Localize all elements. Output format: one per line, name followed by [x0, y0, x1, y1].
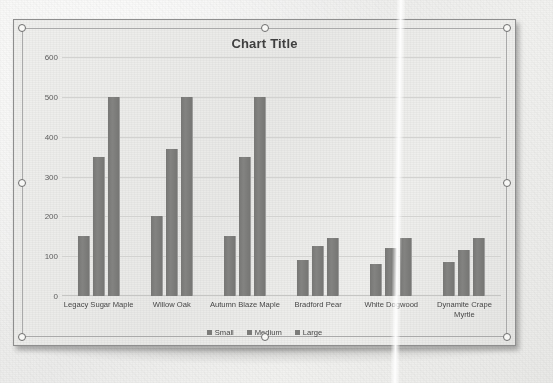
bar-medium[interactable] — [312, 246, 324, 296]
bar-small[interactable] — [151, 216, 163, 296]
resize-handle-top-left[interactable] — [18, 24, 26, 32]
y-axis[interactable]: 0100200300400500600 — [14, 57, 58, 296]
y-axis-tick-label: 0 — [18, 292, 58, 301]
resize-handle-middle-left[interactable] — [18, 179, 26, 187]
legend-label: Small — [215, 328, 234, 337]
y-axis-tick-label: 500 — [18, 92, 58, 101]
bar-group[interactable] — [282, 57, 355, 296]
bar-group[interactable] — [355, 57, 428, 296]
category-label: Legacy Sugar Maple — [62, 300, 135, 320]
category-label: Bradford Pear — [282, 300, 355, 320]
legend-label: Large — [303, 328, 322, 337]
bar-small[interactable] — [224, 236, 236, 296]
bar-small[interactable] — [370, 264, 382, 296]
bar-small[interactable] — [297, 260, 309, 296]
category-label: Dynamite Crape Myrtle — [428, 300, 501, 320]
bar-large[interactable] — [181, 97, 193, 296]
y-axis-tick-label: 400 — [18, 132, 58, 141]
bar-large[interactable] — [327, 238, 339, 296]
legend-item[interactable]: Large — [295, 328, 322, 337]
resize-handle-top-right[interactable] — [503, 24, 511, 32]
bar-group[interactable] — [135, 57, 208, 296]
object-drop-shadow — [18, 348, 523, 364]
bar-large[interactable] — [473, 238, 485, 296]
y-axis-tick-label: 200 — [18, 212, 58, 221]
bar-medium[interactable] — [166, 149, 178, 296]
resize-handle-middle-right[interactable] — [503, 179, 511, 187]
category-label: Willow Oak — [135, 300, 208, 320]
legend-swatch-icon — [295, 330, 300, 335]
bar-medium[interactable] — [458, 250, 470, 296]
resize-handle-top-center[interactable] — [261, 24, 269, 32]
bar-small[interactable] — [443, 262, 455, 296]
bar-groups[interactable] — [62, 57, 501, 296]
resize-handle-bottom-right[interactable] — [503, 333, 511, 341]
chart-object[interactable]: Chart Title 0100200300400500600 Legacy S… — [13, 19, 516, 346]
bar-group[interactable] — [62, 57, 135, 296]
bar-small[interactable] — [78, 236, 90, 296]
y-axis-tick-label: 600 — [18, 53, 58, 62]
bar-group[interactable] — [428, 57, 501, 296]
bar-large[interactable] — [254, 97, 266, 296]
bar-large[interactable] — [108, 97, 120, 296]
bar-medium[interactable] — [239, 157, 251, 296]
legend-swatch-icon — [247, 330, 252, 335]
bar-medium[interactable] — [93, 157, 105, 296]
bar-group[interactable] — [208, 57, 281, 296]
legend-swatch-icon — [207, 330, 212, 335]
resize-handle-bottom-center[interactable] — [261, 333, 269, 341]
bar-medium[interactable] — [385, 248, 397, 296]
category-axis-labels[interactable]: Legacy Sugar MapleWillow OakAutumn Blaze… — [62, 300, 501, 320]
scanned-page: Chart Title 0100200300400500600 Legacy S… — [0, 0, 553, 383]
category-label: Autumn Blaze Maple — [208, 300, 281, 320]
resize-handle-bottom-left[interactable] — [18, 333, 26, 341]
category-label: White Dogwood — [355, 300, 428, 320]
legend-item[interactable]: Small — [207, 328, 234, 337]
bar-large[interactable] — [400, 238, 412, 296]
y-axis-tick-label: 100 — [18, 252, 58, 261]
chart-title[interactable]: Chart Title — [14, 36, 515, 51]
